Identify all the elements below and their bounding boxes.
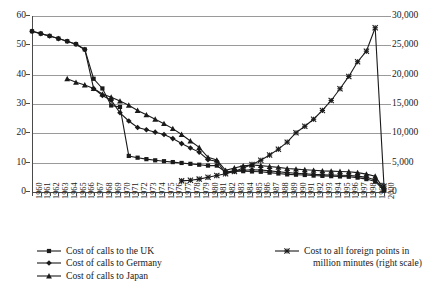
x-axis-tick-mark xyxy=(287,192,288,196)
x-axis-tick-mark xyxy=(261,192,262,196)
y-axis-tick-mark xyxy=(26,44,30,45)
x-axis-tick-mark xyxy=(331,192,332,196)
x-axis-tick-mark xyxy=(58,192,59,196)
legend-marker-cross xyxy=(274,245,300,257)
x-axis-tick-mark xyxy=(94,192,95,196)
y-axis-tick-mark xyxy=(26,162,30,163)
x-axis-tick-label: 1974 xyxy=(159,182,167,199)
y-axis-right-tick-label: 20,000 xyxy=(392,70,418,80)
plot-area xyxy=(32,16,384,192)
legend-point xyxy=(46,261,52,267)
x-axis-tick-mark xyxy=(76,192,77,196)
grid-line xyxy=(32,16,384,17)
x-axis-tick-mark xyxy=(41,192,42,196)
x-axis-tick-mark xyxy=(384,192,385,196)
legend-row-3: Cost of calls to Japan xyxy=(36,270,436,282)
y-axis-left-tick-label: 20 xyxy=(0,128,26,138)
grid-line xyxy=(32,75,384,76)
x-axis-tick-mark xyxy=(358,192,359,196)
grid-line xyxy=(32,133,384,134)
x-axis-tick-mark xyxy=(155,192,156,196)
legend-label-foreign-line1: Cost to all foreign points in xyxy=(304,245,409,257)
y-axis-right-tick-mark xyxy=(384,45,391,46)
y-axis-left-tick-label: 10 xyxy=(0,158,26,168)
y-axis-tick-mark xyxy=(26,74,30,75)
y-axis-tick-mark xyxy=(26,191,30,192)
x-axis-tick-mark xyxy=(322,192,323,196)
x-axis-tick-mark xyxy=(375,192,376,196)
x-axis-tick-mark xyxy=(314,192,315,196)
grid-line xyxy=(32,163,384,164)
legend-label-foreign-line2: million minutes (right scale) xyxy=(313,257,422,269)
x-axis-tick-mark xyxy=(85,192,86,196)
y-axis-right-tick-label: 15,000 xyxy=(392,99,418,109)
y-axis-right-tick-label: 25,000 xyxy=(392,40,418,50)
x-axis-tick-mark xyxy=(182,192,183,196)
legend-point xyxy=(284,248,289,253)
y-axis-left-tick-label: 0 xyxy=(0,187,26,197)
legend-marker-square xyxy=(36,245,62,257)
grid-line xyxy=(32,45,384,46)
x-axis-tick-mark xyxy=(208,192,209,196)
x-axis-tick-mark xyxy=(146,192,147,196)
x-axis-tick-mark xyxy=(173,192,174,196)
x-axis-tick-mark xyxy=(138,192,139,196)
chart-container: 0102030405060 05,00010,00015,00020,00025… xyxy=(0,0,443,292)
y-axis-tick-mark xyxy=(26,103,30,104)
x-axis-tick-label: 1984 xyxy=(247,182,255,199)
legend-label-germany: Cost of calls to Germany xyxy=(66,257,162,269)
x-axis-tick-label: 1999 xyxy=(379,182,387,199)
legend-label-uk: Cost of calls to the UK xyxy=(66,245,154,257)
x-axis-tick-label: 1964 xyxy=(71,182,79,199)
legend-symbol-triangle xyxy=(36,270,62,282)
y-axis-left-tick-label: 60 xyxy=(0,11,26,21)
x-axis-tick-label: 2000 xyxy=(388,182,396,199)
x-axis-tick-mark xyxy=(366,192,367,196)
y-axis-tick-mark xyxy=(26,132,30,133)
x-axis-tick-label: 1994 xyxy=(335,182,343,199)
x-axis-tick-mark xyxy=(102,192,103,196)
grid-line xyxy=(32,104,384,105)
x-axis-tick-mark xyxy=(252,192,253,196)
y-axis-tick-mark xyxy=(26,15,30,16)
legend-row-2: Cost of calls to Germany million minutes… xyxy=(36,257,436,269)
y-axis-right-tick-mark xyxy=(384,75,391,76)
x-axis-tick-label: 1989 xyxy=(291,182,299,199)
legend-point xyxy=(47,249,51,253)
x-axis-tick-mark xyxy=(226,192,227,196)
y-axis-right-tick-label: 30,000 xyxy=(392,11,418,21)
x-axis-tick-mark xyxy=(243,192,244,196)
legend-symbol-square xyxy=(36,245,62,257)
x-axis-tick-mark xyxy=(50,192,51,196)
x-axis-tick-mark xyxy=(349,192,350,196)
y-axis-right-tick-label: 10,000 xyxy=(392,128,418,138)
legend-marker-triangle xyxy=(36,270,62,282)
y-axis-right-tick-label: 5,000 xyxy=(392,158,413,168)
legend-symbol-diamond xyxy=(36,257,62,269)
x-axis-tick-mark xyxy=(234,192,235,196)
y-axis-right-tick-mark xyxy=(384,104,391,105)
x-axis-tick-mark xyxy=(340,192,341,196)
y-axis-left-tick-label: 50 xyxy=(0,40,26,50)
legend-symbol-cross xyxy=(274,245,300,257)
x-axis-tick-label: 1969 xyxy=(115,182,123,199)
x-axis-tick-mark xyxy=(129,192,130,196)
x-axis-tick-mark xyxy=(305,192,306,196)
x-axis-tick-mark xyxy=(296,192,297,196)
legend-marker-diamond xyxy=(36,257,62,269)
y-axis-left-line xyxy=(32,16,33,193)
x-axis-tick-mark xyxy=(217,192,218,196)
x-axis-tick-mark xyxy=(270,192,271,196)
legend-row-1: Cost of calls to the UK Cost to all fore… xyxy=(36,245,436,257)
x-axis-tick-mark xyxy=(67,192,68,196)
chart-legend: Cost of calls to the UK Cost to all fore… xyxy=(36,245,436,282)
x-axis-tick-mark xyxy=(32,192,33,196)
y-axis-right-tick-mark xyxy=(384,16,391,17)
x-axis-tick-mark xyxy=(190,192,191,196)
y-axis-right-tick-mark xyxy=(384,163,391,164)
x-axis-tick-mark xyxy=(164,192,165,196)
x-axis-tick-label: 1979 xyxy=(203,182,211,199)
y-axis-left-tick-label: 30 xyxy=(0,99,26,109)
x-axis-tick-mark xyxy=(199,192,200,196)
x-axis-tick-mark xyxy=(111,192,112,196)
